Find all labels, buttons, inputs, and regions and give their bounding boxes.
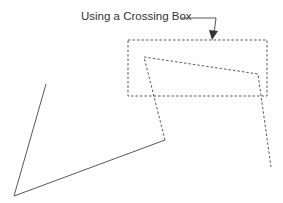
arrow-head-icon xyxy=(209,30,218,40)
unselected-polyline xyxy=(14,84,165,196)
diagram-canvas xyxy=(0,0,283,203)
crossing-box xyxy=(128,40,267,96)
selected-polyline xyxy=(144,57,271,167)
